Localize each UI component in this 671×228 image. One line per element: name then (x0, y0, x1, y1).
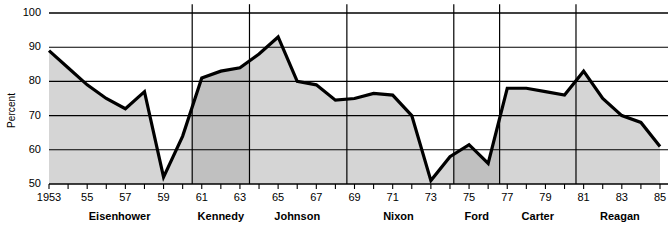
chart-figure: Percent 1009080706050 195355575961636567… (0, 0, 671, 228)
administration-label: Kennedy (198, 210, 244, 222)
administration-label: Nixon (383, 210, 414, 222)
x-axis-tick-label: 83 (616, 191, 628, 203)
x-axis-tick-label: 65 (272, 191, 284, 203)
administration-band (347, 9, 454, 188)
y-axis-tick-label: 100 (15, 6, 41, 18)
administration-label: Ford (464, 210, 488, 222)
administration-label: Carter (522, 210, 554, 222)
administration-label: Johnson (274, 210, 320, 222)
x-axis-tick-label: 59 (157, 191, 169, 203)
x-axis-tick-label: 73 (425, 191, 437, 203)
y-axis-tick-label: 60 (15, 143, 41, 155)
y-axis-tick-label: 70 (15, 109, 41, 121)
y-axis-tick-label: 80 (15, 74, 41, 86)
administration-band (500, 9, 576, 188)
administration-band (454, 9, 500, 188)
administration-band (576, 9, 660, 188)
y-axis-tick-label: 50 (15, 177, 41, 189)
x-axis-tick-label: 85 (654, 191, 666, 203)
chart-plot-area (0, 0, 671, 228)
x-axis-tick-label: 77 (501, 191, 513, 203)
x-axis-tick-label: 61 (196, 191, 208, 203)
x-axis-tick-label: 75 (463, 191, 475, 203)
x-axis-tick-label: 57 (119, 191, 131, 203)
administration-label: Eisenhower (89, 210, 151, 222)
administration-band (192, 9, 249, 188)
x-axis-tick-label: 63 (234, 191, 246, 203)
x-axis-tick-label: 69 (348, 191, 360, 203)
x-axis-tick-label: 81 (578, 191, 590, 203)
x-axis-tick-label: 79 (539, 191, 551, 203)
y-axis-tick-label: 90 (15, 40, 41, 52)
x-axis-ticks (49, 184, 660, 189)
x-axis-tick-label: 67 (310, 191, 322, 203)
administration-label: Reagan (600, 210, 640, 222)
x-axis-tick-label: 71 (387, 191, 399, 203)
x-axis-tick-label: 55 (81, 191, 93, 203)
x-axis-tick-label: 1953 (37, 191, 61, 203)
